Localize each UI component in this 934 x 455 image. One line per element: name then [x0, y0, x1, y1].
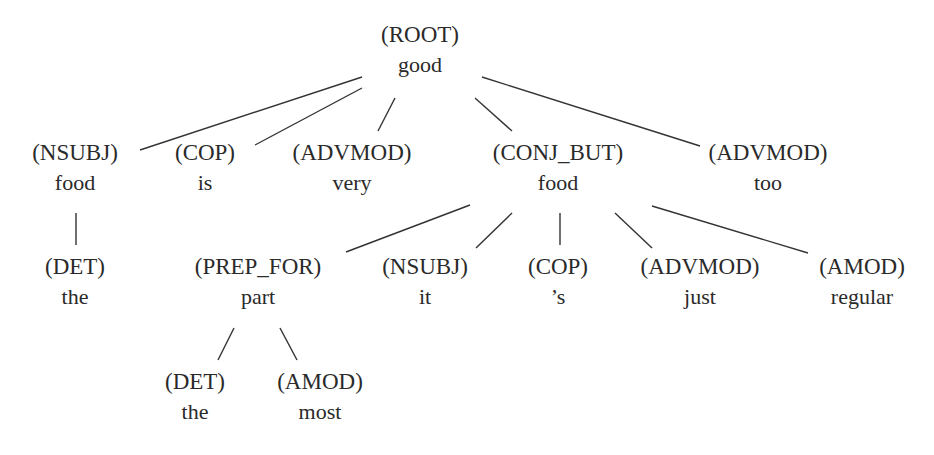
tree-edge	[218, 328, 234, 360]
tree-node: (ADVMOD)just	[641, 252, 760, 312]
relation-label: (DET)	[165, 367, 225, 397]
relation-label: (AMOD)	[277, 367, 363, 397]
tree-node: (ROOT)good	[381, 20, 459, 80]
word-label: regular	[819, 282, 905, 312]
tree-node: (AMOD)regular	[819, 252, 905, 312]
relation-label: (COP)	[175, 138, 235, 168]
tree-edge	[378, 98, 395, 131]
word-label: the	[45, 282, 105, 312]
word-label: just	[641, 282, 760, 312]
tree-edge	[476, 213, 512, 248]
relation-label: (ADVMOD)	[641, 252, 760, 282]
relation-label: (ROOT)	[381, 20, 459, 50]
tree-node: (DET)the	[45, 252, 105, 312]
tree-node: (ADVMOD)too	[709, 138, 828, 198]
tree-edge	[615, 213, 652, 248]
tree-node: (PREP_FOR)part	[195, 252, 322, 312]
relation-label: (PREP_FOR)	[195, 252, 322, 282]
relation-label: (NSUBJ)	[32, 138, 118, 168]
tree-node: (CONJ_BUT)food	[493, 138, 623, 198]
relation-label: (CONJ_BUT)	[493, 138, 623, 168]
tree-edges	[0, 0, 934, 455]
tree-node: (NSUBJ)food	[32, 138, 118, 198]
word-label: part	[195, 282, 322, 312]
tree-edge	[482, 77, 700, 146]
tree-node: (DET)the	[165, 367, 225, 427]
tree-edge	[280, 328, 297, 360]
tree-edge	[255, 88, 362, 145]
relation-label: (ADVMOD)	[709, 138, 828, 168]
relation-label: (COP)	[528, 252, 588, 282]
tree-node: (COP)’s	[528, 252, 588, 312]
word-label: most	[277, 397, 363, 427]
relation-label: (AMOD)	[819, 252, 905, 282]
tree-edge	[346, 205, 470, 252]
tree-edge	[652, 206, 808, 253]
word-label: the	[165, 397, 225, 427]
word-label: too	[709, 168, 828, 198]
tree-node: (COP)is	[175, 138, 235, 198]
word-label: food	[32, 168, 118, 198]
word-label: it	[382, 282, 468, 312]
word-label: ’s	[528, 282, 588, 312]
relation-label: (DET)	[45, 252, 105, 282]
word-label: very	[293, 168, 412, 198]
tree-edge	[475, 98, 512, 131]
tree-node: (NSUBJ)it	[382, 252, 468, 312]
relation-label: (NSUBJ)	[382, 252, 468, 282]
word-label: good	[381, 50, 459, 80]
tree-node: (ADVMOD)very	[293, 138, 412, 198]
relation-label: (ADVMOD)	[293, 138, 412, 168]
word-label: is	[175, 168, 235, 198]
tree-node: (AMOD)most	[277, 367, 363, 427]
word-label: food	[493, 168, 623, 198]
